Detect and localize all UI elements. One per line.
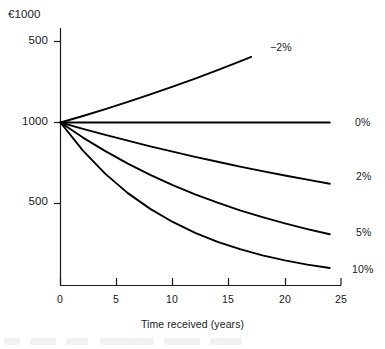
series-label-5: 5% [356, 226, 371, 238]
plot-canvas [0, 0, 385, 349]
series-group [61, 57, 330, 268]
series-line-2pct [61, 123, 330, 184]
axis-lines [61, 28, 342, 286]
series-line-5pct [61, 123, 330, 235]
x-axis-title: Time received (years) [0, 318, 385, 330]
y-axis-ticks [54, 42, 61, 204]
x-axis-ticks [61, 278, 342, 286]
series-label-0: 0% [355, 116, 370, 128]
page-footer-artifact [4, 338, 304, 345]
series-label-neg2: −2% [270, 41, 292, 53]
chart-figure: €1000 500 1000 500 0 5 10 15 20 25 −2% 0… [0, 0, 385, 349]
series-line-neg2pct [61, 57, 252, 123]
series-label-10: 10% [352, 263, 373, 275]
series-label-2: 2% [356, 170, 371, 182]
